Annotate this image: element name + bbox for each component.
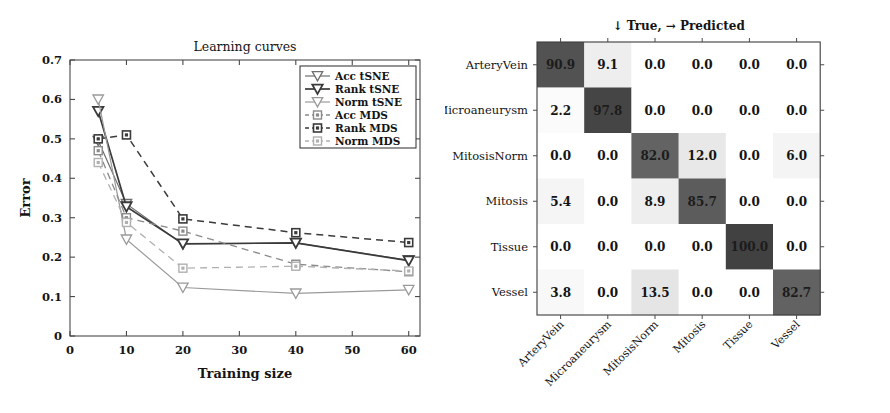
matrix-cell-value: 13.5	[640, 286, 669, 300]
matrix-cell-value: 0.0	[739, 104, 760, 118]
x-axis-label: Training size	[198, 366, 292, 381]
row-label: Vessel	[491, 285, 529, 299]
matrix-cell-value: 0.0	[597, 240, 618, 254]
learning-curves-chart: Learning curves00.10.20.30.40.50.60.7010…	[0, 0, 445, 413]
matrix-title: ↓ True, → Predicted	[612, 19, 745, 33]
matrix-cell-value: 0.0	[692, 58, 713, 72]
matrix-cell-value: 5.4	[550, 195, 571, 209]
matrix-cell-value: 0.0	[645, 240, 666, 254]
matrix-cell-value: 2.2	[550, 104, 571, 118]
col-label: ArteryVein	[515, 318, 567, 370]
matrix-cell-value: 8.9	[645, 195, 666, 209]
y-tick-label: 0.5	[42, 132, 62, 146]
data-marker-core	[125, 221, 128, 224]
matrix-cell-value: 0.0	[597, 195, 618, 209]
series-line	[98, 135, 408, 243]
matrix-cell-value: 0.0	[739, 58, 760, 72]
legend-label: Acc MDS	[334, 109, 388, 121]
y-tick-label: 0.1	[42, 290, 62, 304]
matrix-cell-value: 0.0	[739, 195, 760, 209]
col-label: Mitosis	[670, 318, 708, 356]
data-marker-core	[125, 133, 128, 136]
figure-root: Learning curves00.10.20.30.40.50.60.7010…	[0, 0, 890, 413]
learning-curves-panel: Learning curves00.10.20.30.40.50.60.7010…	[0, 0, 445, 413]
x-tick-label: 10	[118, 343, 134, 357]
data-marker-core	[316, 139, 319, 142]
x-tick-label: 20	[175, 343, 191, 357]
series-acc-mds	[94, 147, 412, 276]
x-tick-label: 30	[231, 343, 247, 357]
matrix-cell-value: 0.0	[550, 240, 571, 254]
matrix-cell-value: 0.0	[692, 286, 713, 300]
y-tick-label: 0.7	[42, 53, 62, 67]
matrix-cell-value: 0.0	[786, 240, 807, 254]
matrix-cell-value: 97.8	[593, 104, 622, 118]
confusion-matrix-panel: ↓ True, → Predicted90.99.10.00.00.00.02.…	[445, 0, 890, 413]
row-label: MitosisNorm	[452, 149, 528, 163]
matrix-cell-value: 0.0	[739, 149, 760, 163]
legend-label: Rank MDS	[335, 122, 398, 134]
matrix-cell-value: 0.0	[597, 149, 618, 163]
matrix-cell-value: 0.0	[786, 195, 807, 209]
legend-label: Norm tSNE	[335, 96, 402, 108]
chart-title: Learning curves	[193, 39, 296, 54]
row-label: Mitosis	[486, 194, 529, 208]
matrix-cell-value: 0.0	[692, 240, 713, 254]
matrix-cell-value: 6.0	[786, 149, 807, 163]
y-tick-label: 0	[54, 329, 62, 343]
matrix-cell-value: 100.0	[731, 240, 769, 254]
x-tick-label: 60	[401, 343, 417, 357]
y-tick-label: 0.3	[42, 211, 62, 225]
data-marker-core	[407, 269, 410, 272]
y-tick-label: 0.4	[42, 171, 62, 185]
matrix-cell-value: 0.0	[786, 104, 807, 118]
data-marker-core	[97, 149, 100, 152]
y-axis-label: Error	[18, 178, 33, 217]
data-marker-core	[316, 126, 319, 129]
data-marker-core	[181, 217, 184, 220]
matrix-cell-value: 12.0	[688, 149, 717, 163]
matrix-cell-value: 3.8	[550, 286, 571, 300]
data-marker	[93, 95, 103, 104]
y-tick-label: 0.6	[42, 92, 62, 106]
col-label: Vessel	[768, 318, 803, 353]
data-marker-core	[316, 113, 319, 116]
matrix-cell-value: 9.1	[597, 58, 618, 72]
legend-label: Norm MDS	[335, 135, 400, 147]
confusion-matrix-chart: ↓ True, → Predicted90.99.10.00.00.00.02.…	[445, 0, 890, 413]
matrix-cell-value: 0.0	[597, 286, 618, 300]
matrix-cell-value: 82.7	[782, 286, 811, 300]
matrix-cell-value: 0.0	[786, 58, 807, 72]
matrix-cells: 90.99.10.00.00.00.02.297.80.00.00.00.00.…	[537, 42, 821, 315]
data-marker-core	[181, 267, 184, 270]
chart-legend: Acc tSNERank tSNENorm tSNEAcc MDSRank MD…	[300, 66, 416, 148]
matrix-cell-value: 0.0	[739, 286, 760, 300]
data-marker-core	[294, 265, 297, 268]
series-line	[98, 141, 408, 260]
data-marker-core	[97, 137, 100, 140]
matrix-cell-value: 82.0	[640, 149, 669, 163]
row-label: ArteryVein	[465, 58, 529, 72]
row-label: Microaneurysm	[445, 103, 528, 117]
data-marker-core	[181, 230, 184, 233]
data-marker-core	[294, 231, 297, 234]
matrix-cell-value: 0.0	[645, 58, 666, 72]
legend-label: Rank tSNE	[335, 83, 399, 95]
data-marker-core	[407, 241, 410, 244]
row-label: Tissue	[491, 240, 529, 254]
matrix-cell-value: 0.0	[692, 104, 713, 118]
x-tick-label: 50	[344, 343, 360, 357]
matrix-cell-value: 85.7	[688, 195, 717, 209]
data-marker-core	[97, 161, 100, 164]
matrix-cell-value: 0.0	[645, 104, 666, 118]
col-label: Tissue	[721, 318, 755, 352]
matrix-cell-value: 90.9	[546, 58, 575, 72]
matrix-cell-value: 0.0	[550, 149, 571, 163]
y-tick-label: 0.2	[42, 250, 62, 264]
legend-label: Acc tSNE	[334, 70, 390, 82]
x-tick-label: 0	[66, 343, 74, 357]
x-tick-label: 40	[288, 343, 304, 357]
